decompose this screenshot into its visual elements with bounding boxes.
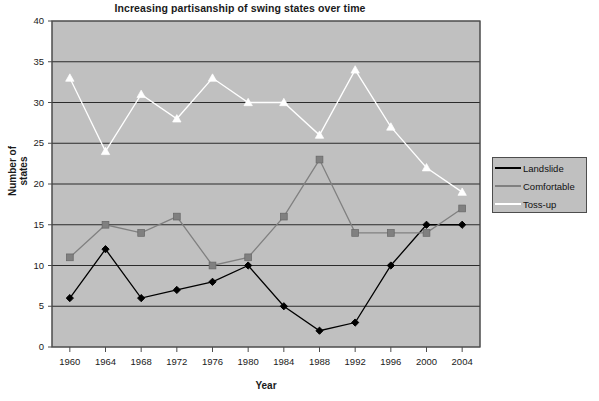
legend-item-comfortable[interactable]: Comfortable [493,177,588,195]
x-tick-label: 1972 [157,356,197,367]
square-icon [505,182,512,189]
legend-label-landslide: Landslide [523,163,564,174]
x-tick-label: 1964 [86,356,126,367]
y-tick-label: 25 [18,137,44,148]
data-point [423,230,430,237]
data-point [245,254,252,261]
y-axis-ticks [48,21,52,347]
legend-label-comfortable: Comfortable [523,181,575,192]
x-tick-label: 1976 [193,356,233,367]
x-tick-label: 2004 [442,356,482,367]
y-tick-label: 0 [18,341,44,352]
x-tick-label: 1996 [371,356,411,367]
y-tick-label: 10 [18,260,44,271]
x-tick-label: 1960 [50,356,90,367]
legend-swatch-landslide [493,161,523,175]
x-tick-label: 1984 [264,356,304,367]
data-point [387,230,394,237]
y-tick-label: 35 [18,56,44,67]
data-point [138,230,145,237]
x-tick-label: 1988 [300,356,340,367]
data-point [209,262,216,269]
x-tick-label: 1980 [228,356,268,367]
y-tick-label: 30 [18,97,44,108]
legend-label-toss-up: Toss-up [523,199,556,210]
legend: Landslide Comfortable Toss-up [492,157,587,213]
y-tick-label: 15 [18,219,44,230]
chart-container: Increasing partisanship of swing states … [0,0,599,401]
data-point [173,213,180,220]
y-tick-label: 20 [18,178,44,189]
data-point [352,230,359,237]
data-point [316,156,323,163]
x-tick-label: 2000 [407,356,447,367]
x-tick-label: 1968 [121,356,161,367]
x-tick-label: 1992 [335,356,375,367]
triangle-icon [505,200,512,207]
legend-swatch-comfortable [493,179,523,193]
legend-item-landslide[interactable]: Landslide [493,159,588,177]
data-point [102,221,109,228]
data-point [459,205,466,212]
data-point [66,254,73,261]
x-axis-ticks [70,347,462,352]
y-tick-label: 5 [18,300,44,311]
legend-swatch-toss-up [493,197,523,211]
data-point [280,213,287,220]
y-tick-label: 40 [18,15,44,26]
legend-item-toss-up[interactable]: Toss-up [493,195,588,213]
diamond-icon [505,164,512,171]
